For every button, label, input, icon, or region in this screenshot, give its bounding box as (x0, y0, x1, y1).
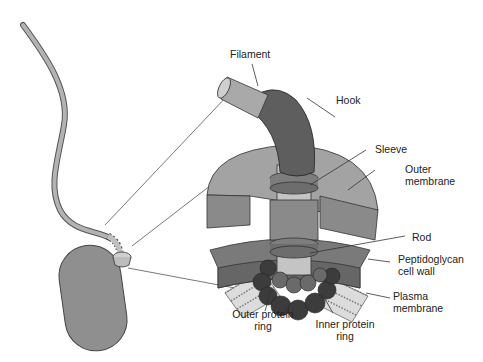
label-plasma-membrane-line2: membrane (393, 302, 443, 314)
label-inner-ring-line2: ring (305, 330, 385, 342)
filament-segment (215, 76, 268, 118)
label-outer-membrane-line2: membrane (405, 175, 455, 187)
label-hook: Hook (336, 94, 361, 106)
label-outer-membrane-line1: Outer (405, 163, 431, 175)
label-rod: Rod (412, 231, 431, 243)
label-plasma-membrane-line1: Plasma (393, 290, 428, 302)
label-peptidoglycan-line2: cell wall (398, 265, 435, 277)
label-filament: Filament (230, 48, 270, 60)
rod-sleeve (270, 165, 318, 275)
label-peptidoglycan-line1: Peptidoglycan (398, 253, 464, 265)
label-sleeve: Sleeve (375, 143, 407, 155)
label-outer-ring-line2: ring (223, 320, 303, 332)
label-inner-ring-line1: Inner protein (305, 318, 385, 330)
label-outer-ring-line1: Outer protein (223, 308, 303, 320)
flagellum-tail (23, 25, 110, 238)
